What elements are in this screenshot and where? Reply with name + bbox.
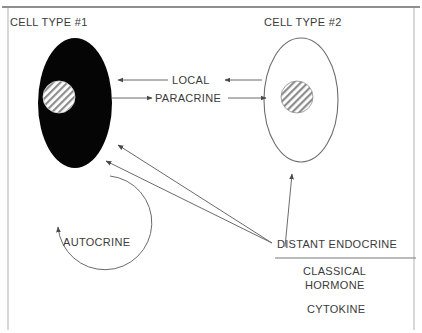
endocrine-arrow-to-cell2: [285, 174, 292, 247]
endocrine-arrow-to-cell1-lower: [106, 161, 272, 243]
endocrine-type-classical: CLASSICAL: [303, 265, 366, 277]
endocrine-arrow-to-cell1-upper: [118, 145, 272, 243]
paracrine-signal-label: PARACRINE: [155, 92, 221, 104]
distant-endocrine-label: DISTANT ENDOCRINE: [277, 238, 397, 250]
endocrine-type-hormone: HORMONE: [305, 279, 365, 291]
signaling-diagram: CELL TYPE #1 CELL TYPE #2 LOCAL PARACRIN…: [0, 0, 422, 333]
autocrine-signal-label: AUTOCRINE: [63, 236, 130, 248]
cell-type-1-nucleus: [43, 81, 75, 113]
cell-type-1-label: CELL TYPE #1: [10, 16, 88, 28]
cell-type-2-label: CELL TYPE #2: [264, 16, 342, 28]
local-signal-label: LOCAL: [172, 74, 210, 86]
autocrine-loop-arc: [58, 176, 152, 270]
endocrine-type-cytokine: CYTOKINE: [307, 303, 365, 315]
cell-type-2-nucleus: [281, 81, 313, 113]
